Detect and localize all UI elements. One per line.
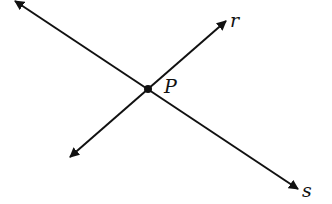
- line-s-label: s: [302, 179, 312, 201]
- diagram-canvas: P r s: [0, 0, 332, 204]
- line-s: [15, 1, 298, 189]
- point-p-label: P: [163, 75, 178, 97]
- line-r-label: r: [230, 9, 241, 31]
- point-p-dot: [144, 85, 152, 93]
